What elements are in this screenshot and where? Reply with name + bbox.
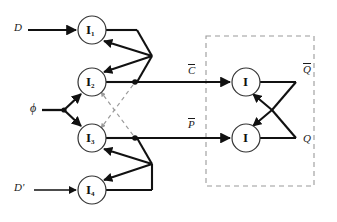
input-label-d: D bbox=[14, 22, 22, 33]
wire-apex-to-i5 bbox=[253, 94, 272, 110]
wire-apex-to-i4 bbox=[104, 164, 152, 180]
output-label-q: Q bbox=[303, 133, 311, 144]
gate-label-i3: I3 bbox=[86, 131, 95, 144]
gate-label-i5: I bbox=[243, 75, 248, 88]
gate-subscript-i1: 1 bbox=[91, 30, 95, 38]
circuit-diagram-figure: D ϕ D' I1 I2 I3 I4 I I C P Q Q bbox=[0, 0, 337, 222]
latch-dashed-box bbox=[206, 36, 314, 186]
dashed-feedback-i2-to-i3 bbox=[101, 85, 133, 128]
output-label-q-text: Q bbox=[303, 132, 311, 144]
input-label-dbar: D' bbox=[14, 182, 24, 193]
wire-apex-to-i6 bbox=[253, 110, 272, 126]
wire-i5-to-apex bbox=[272, 82, 296, 110]
gate-subscript-i4: 4 bbox=[91, 190, 95, 198]
gate-label-i4: I4 bbox=[86, 183, 95, 196]
net-label-pbar-text: P bbox=[188, 118, 195, 131]
gate-subscript-i2: 2 bbox=[91, 82, 95, 90]
circuit-svg bbox=[0, 0, 337, 222]
gate-symbol-i5: I bbox=[243, 74, 248, 89]
gate-label-i6: I bbox=[243, 131, 248, 144]
output-label-qbar: Q bbox=[303, 63, 311, 76]
wire-phi-to-i3 bbox=[64, 110, 81, 126]
wire-i6-to-apex bbox=[272, 110, 296, 138]
gate-symbol-i6: I bbox=[243, 130, 248, 145]
input-label-phi: ϕ bbox=[30, 102, 36, 114]
dashed-feedback-i3-to-i2 bbox=[101, 92, 133, 135]
net-label-pbar: P bbox=[188, 118, 195, 131]
output-label-qbar-text: Q bbox=[303, 63, 311, 76]
gate-label-i1: I1 bbox=[86, 23, 95, 36]
net-label-cbar-text: C bbox=[188, 64, 195, 77]
net-label-cbar: C bbox=[188, 64, 195, 77]
wire-phi-to-i2 bbox=[64, 94, 81, 110]
gate-subscript-i3: 3 bbox=[91, 138, 95, 146]
gate-label-i2: I2 bbox=[86, 75, 95, 88]
